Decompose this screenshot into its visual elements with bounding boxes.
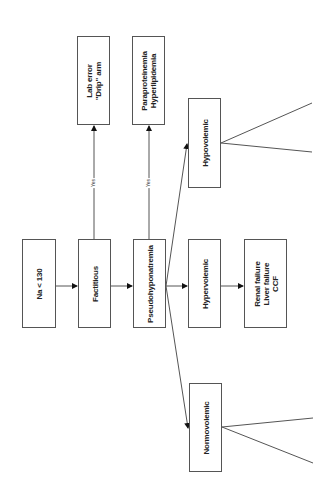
node-hypervolemic: Hypervolemic xyxy=(188,239,221,328)
node-label: Renal failure Liver failure CCF xyxy=(252,261,279,306)
node-hypovolemic: Hypovolemic xyxy=(188,98,221,188)
flowchart-canvas: Na < 130 Factitious Pseudohyponatremia H… xyxy=(0,0,335,501)
edge-label-yes: Yes xyxy=(145,178,151,188)
node-hypervolemic-causes: Renal failure Liver failure CCF xyxy=(244,239,287,328)
node-normovolemic: Normovolemic xyxy=(189,383,222,472)
node-lab-error: Lab error "Drip" arm xyxy=(77,36,110,125)
node-label: Normovolemic xyxy=(201,401,210,454)
node-label: Factitious xyxy=(90,266,99,302)
node-paraproteinemia: Paraproteinemia Hyperlipidemia xyxy=(132,36,165,125)
node-label: Lab error "Drip" arm xyxy=(85,61,103,100)
node-na-lt-130: Na < 130 xyxy=(22,239,56,328)
node-label: Pseudohyponatremia xyxy=(145,245,154,323)
node-factitious: Factitious xyxy=(78,239,111,328)
node-label: Na < 130 xyxy=(35,268,44,299)
node-label: Hypovolemic xyxy=(200,119,209,167)
node-label: Hypervolemic xyxy=(200,258,209,308)
node-label: Paraproteinemia Hyperlipidemia xyxy=(140,51,158,111)
node-pseudohyponatremia: Pseudohyponatremia xyxy=(133,239,166,328)
edge-label-yes: Yes xyxy=(90,178,96,188)
